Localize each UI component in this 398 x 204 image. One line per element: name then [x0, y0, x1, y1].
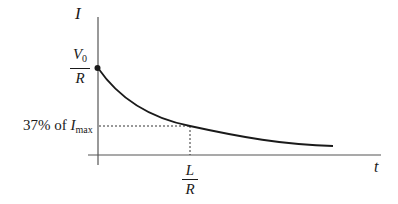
v0-subscript: 0 — [82, 53, 87, 64]
pct-text: 37% of — [23, 117, 71, 133]
lr-denominator: R — [182, 181, 198, 197]
decay-curve — [98, 68, 333, 146]
fraction-bar — [70, 68, 90, 69]
chart-canvas — [0, 0, 398, 204]
v0-denominator: R — [70, 70, 90, 86]
lr-numerator: L — [182, 162, 198, 178]
y-tick-37-percent: 37% of Imax — [23, 117, 93, 135]
initial-point — [95, 65, 101, 71]
fraction-bar — [182, 179, 198, 180]
x-tick-l-over-r: L R — [182, 162, 198, 197]
y-axis-label: I — [75, 4, 81, 24]
x-axis-label: t — [374, 158, 378, 176]
y-tick-v0-over-r: V0 R — [70, 46, 90, 86]
v0-numerator: V — [73, 46, 82, 62]
imax-subscript: max — [76, 124, 93, 135]
